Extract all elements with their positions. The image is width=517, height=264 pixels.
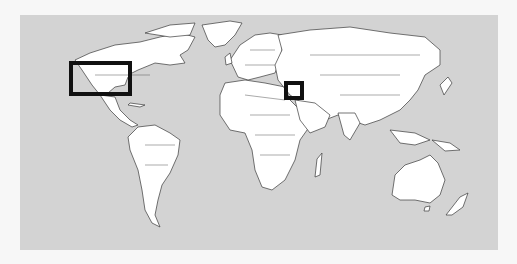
highlight-box-middle-east bbox=[284, 81, 304, 100]
world-map-svg bbox=[20, 15, 498, 250]
madagascar bbox=[315, 153, 322, 177]
south-america bbox=[128, 125, 180, 227]
new-guinea bbox=[432, 140, 460, 151]
caribbean bbox=[128, 103, 145, 107]
tasmania bbox=[424, 206, 430, 211]
japan bbox=[440, 77, 452, 95]
southeast-asia-islands bbox=[390, 130, 430, 145]
greenland bbox=[202, 21, 242, 47]
central-america bbox=[100, 95, 138, 127]
australia bbox=[392, 155, 445, 203]
arctic-islands bbox=[145, 23, 195, 37]
united-kingdom bbox=[225, 53, 232, 65]
highlight-box-northern-us bbox=[69, 61, 132, 96]
india bbox=[338, 113, 360, 140]
europe bbox=[230, 33, 282, 80]
world-map bbox=[20, 15, 498, 250]
new-zealand bbox=[446, 193, 468, 215]
